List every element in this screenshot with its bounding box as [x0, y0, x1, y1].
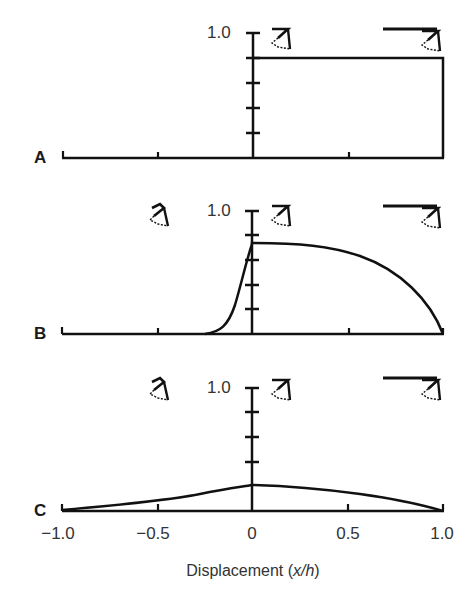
panel-c: [62, 378, 444, 511]
camera-icon: [422, 31, 440, 51]
y-tick-label-a: 1.0: [207, 23, 231, 43]
panel-label-a: A: [34, 148, 46, 168]
y-tick-label-b: 1.0: [207, 201, 231, 221]
camera-icon: [150, 378, 168, 400]
x-tick-label: 0.5: [336, 524, 360, 544]
panel-label-c: C: [34, 501, 46, 521]
camera-icon: [422, 208, 440, 228]
camera-icon: [272, 29, 290, 49]
data-line-b: [205, 243, 443, 334]
x-tick-label: −1.0: [41, 524, 75, 544]
camera-icon: [150, 204, 168, 226]
camera-icon: [272, 380, 290, 400]
panel-a: [62, 29, 444, 158]
camera-icon: [422, 380, 440, 400]
x-tick-label: 0: [247, 524, 256, 544]
x-tick-label: 1.0: [430, 524, 454, 544]
x-axis-title: Displacement (x/h): [0, 562, 471, 580]
panel-b: [62, 204, 444, 334]
camera-icon: [272, 206, 290, 226]
y-tick-label-c: 1.0: [207, 378, 231, 398]
data-line-a: [253, 58, 443, 158]
x-tick-label: −0.5: [136, 524, 170, 544]
panel-label-b: B: [34, 324, 46, 344]
figure-canvas: [0, 0, 471, 600]
